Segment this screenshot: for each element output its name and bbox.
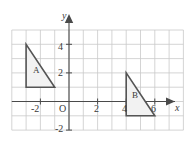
- y-tick-label-2: 2: [58, 68, 63, 78]
- x-axis-arrow-icon: [166, 98, 175, 106]
- triangle-b-label: B: [132, 91, 138, 100]
- coordinate-grid-svg: [0, 0, 186, 144]
- x-tick-label-6: 6: [151, 104, 156, 114]
- y-tick-label-4: 4: [58, 42, 63, 52]
- x-tick-label-4: 4: [122, 104, 127, 114]
- y-axis-label: y: [62, 11, 66, 21]
- coordinate-plane-figure: 4 2 -2 -2 2 4 6 O y x A B: [0, 0, 186, 144]
- x-axis-label: x: [175, 103, 179, 113]
- x-tick-label-neg2: -2: [31, 104, 39, 114]
- origin-label: O: [59, 104, 66, 114]
- y-tick-label-neg2: -2: [55, 124, 63, 134]
- x-tick-label-2: 2: [94, 104, 99, 114]
- triangle-a-label: A: [33, 66, 40, 75]
